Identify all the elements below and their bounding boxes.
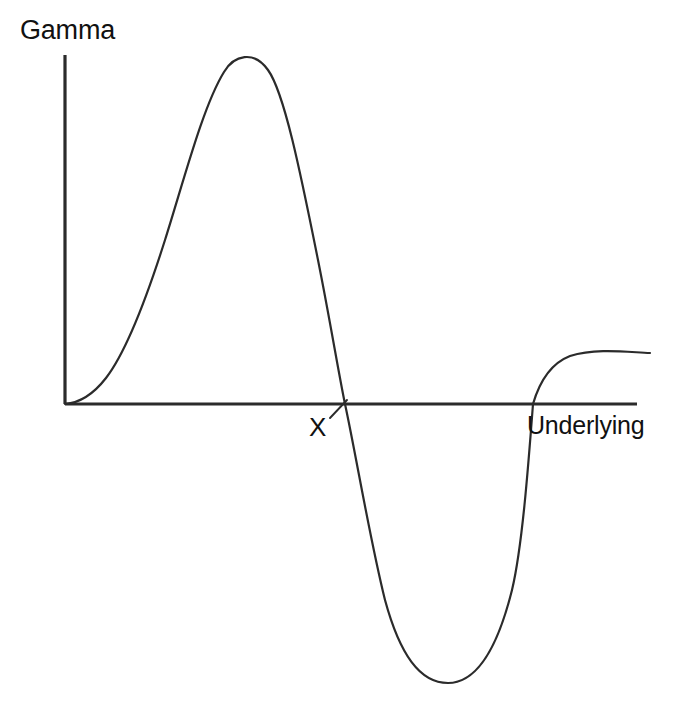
gamma-curve-plot — [0, 0, 675, 707]
gamma-curve-path — [65, 57, 650, 683]
y-axis-label: Gamma — [20, 17, 115, 44]
x-axis-label: Underlying — [527, 413, 645, 438]
strike-annotation-label: X — [309, 414, 326, 440]
gamma-chart-figure: Gamma X Underlying — [0, 0, 675, 707]
